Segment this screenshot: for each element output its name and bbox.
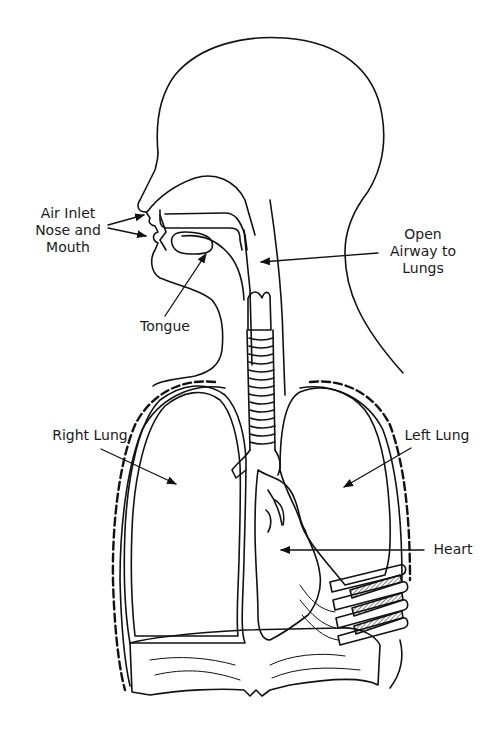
arrow-tongue (165, 254, 206, 316)
arrow-air-inlet-mouth (108, 228, 146, 236)
arrow-air-inlet-nose (108, 215, 144, 225)
arrow-open-airway (261, 253, 378, 262)
face-outline (146, 212, 223, 386)
right-lung-outline (124, 386, 246, 643)
diaphragm (130, 628, 380, 696)
label-line: Nose and (28, 222, 108, 239)
respiratory-diagram (0, 0, 499, 734)
left-lung-outline (280, 388, 390, 585)
label-line: Airway to (383, 243, 463, 260)
label-line: Mouth (28, 239, 108, 256)
airway-back (270, 200, 285, 395)
label-heart: Heart (428, 541, 478, 558)
heart-outline (255, 470, 320, 640)
label-tongue: Tongue (130, 318, 200, 335)
label-open-airway: Open Airway to Lungs (383, 226, 463, 277)
label-right-lung: Right Lung (45, 427, 135, 444)
arrow-right-lung (101, 449, 176, 484)
label-line: Lungs (383, 260, 463, 277)
label-line: Open (383, 226, 463, 243)
label-left-lung: Left Lung (397, 427, 477, 444)
label-line: Air Inlet (28, 205, 108, 222)
label-air-inlet: Air Inlet Nose and Mouth (28, 205, 108, 256)
